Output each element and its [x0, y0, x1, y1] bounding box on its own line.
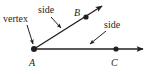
- side-top-pointer-arrow-icon: [51, 17, 61, 28]
- side-right-pointer-arrow-icon: [90, 31, 106, 44]
- vertex-label: vertex: [3, 13, 28, 24]
- angle-diagram-svg: vertex side side B A C: [0, 0, 150, 74]
- point-a-label: A: [28, 57, 36, 68]
- side-top-label: side: [38, 4, 55, 15]
- angle-diagram: vertex side side B A C: [0, 0, 150, 74]
- point-b-label: B: [74, 7, 80, 18]
- point-c-dot: [113, 46, 118, 51]
- vertex-pointer-arrow-icon: [27, 25, 33, 44]
- point-c-label: C: [111, 57, 118, 68]
- point-b-dot: [83, 14, 88, 19]
- side-right-label: side: [104, 19, 121, 30]
- point-a-dot: [31, 46, 37, 52]
